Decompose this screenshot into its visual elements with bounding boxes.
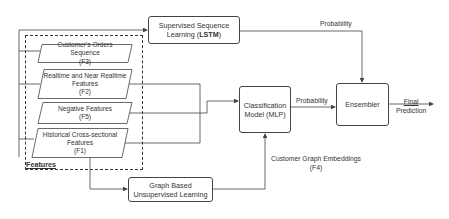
edge-label-lstm-probability: Probability xyxy=(320,20,352,29)
mlp-line1: Classification xyxy=(244,101,286,110)
ensembler-label: Ensembler xyxy=(345,100,379,109)
feature-f5-node: Negative Features (F5) xyxy=(37,102,133,124)
f1-line3: (F1) xyxy=(74,147,86,154)
feature-f3-node: Customer's Orders Sequence (F3) xyxy=(37,44,133,63)
feature-f1-node: Historical Cross-sectional Features (F1) xyxy=(31,128,129,158)
mlp-line2: Model (MLP) xyxy=(244,110,285,119)
ensembler-node: Ensembler xyxy=(336,83,389,126)
f2-line2: Features xyxy=(72,80,98,87)
edge-label-final-prediction: Final Prediction xyxy=(396,98,426,115)
f5-line1: Negative Features xyxy=(58,105,112,112)
f3-line1: Customer's Orders Sequence xyxy=(57,41,112,56)
graph-unsupervised-node: Graph Based Unsupervised Learning xyxy=(128,177,213,202)
f2-line3: (F2) xyxy=(79,88,91,95)
f3-line2: (F3) xyxy=(79,58,91,65)
lstm-line2-suffix: ) xyxy=(219,30,221,39)
final-line2: Prediction xyxy=(396,107,426,114)
f2-line1: Realtime and Near Realtime xyxy=(44,72,127,79)
feature-f2-node: Realtime and Near Realtime Features (F2) xyxy=(37,69,133,99)
edge-label-mlp-probability: Probability xyxy=(296,97,328,106)
graph-line1: Graph Based xyxy=(149,181,191,190)
final-line1: Final xyxy=(404,98,419,105)
classification-mlp-node: Classification Model (MLP) xyxy=(239,86,291,133)
graph-embeddings-line2: (F4) xyxy=(310,164,322,171)
lstm-line1: Supervised Sequence xyxy=(159,21,229,30)
graph-line2: Unsupervised Learning xyxy=(134,190,208,199)
edge-label-graph-embeddings: Customer Graph Embeddings (F4) xyxy=(271,155,361,172)
features-container-label: Features xyxy=(26,160,56,169)
lstm-line2-prefix: Learning ( xyxy=(167,30,199,39)
lstm-line2-bold: LSTM xyxy=(199,30,219,39)
f1-line2: Features xyxy=(67,139,93,146)
graph-embeddings-line1: Customer Graph Embeddings xyxy=(271,155,361,162)
lstm-node: Supervised Sequence Learning (LSTM) xyxy=(148,16,240,44)
f5-line2: (F5) xyxy=(79,113,91,120)
f1-line1: Historical Cross-sectional xyxy=(43,131,117,138)
